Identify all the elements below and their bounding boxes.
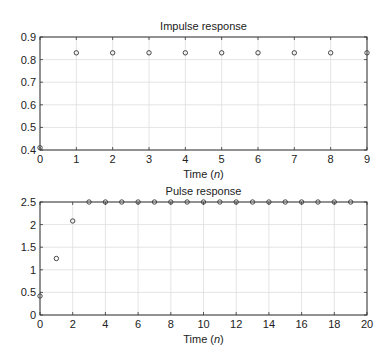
- y-tick-label: 0.7: [21, 76, 36, 88]
- axes-box: [40, 37, 367, 150]
- pulse-response-plot: 0246810121416182000.511.522.5Pulse respo…: [21, 185, 373, 345]
- figure: 01234567890.40.50.60.70.80.9Impulse resp…: [0, 0, 392, 362]
- x-tick-label: 5: [219, 153, 225, 165]
- x-tick-label: 20: [361, 318, 373, 330]
- x-tick-label: 0: [37, 153, 43, 165]
- x-tick-label: 6: [255, 153, 261, 165]
- x-tick-label: 2: [110, 153, 116, 165]
- impulse-response-plot: 01234567890.40.50.60.70.80.9Impulse resp…: [21, 20, 370, 180]
- x-tick-label: 8: [328, 153, 334, 165]
- x-tick-label: 14: [263, 318, 275, 330]
- y-tick-label: 0.5: [21, 121, 36, 133]
- x-axis-label: Time (n): [183, 168, 224, 180]
- x-tick-label: 4: [182, 153, 188, 165]
- y-tick-label: 0.5: [21, 286, 36, 298]
- y-tick-label: 1: [30, 264, 36, 276]
- y-tick-label: 2: [30, 219, 36, 231]
- y-tick-label: 2.5: [21, 196, 36, 208]
- data-point: [54, 256, 58, 260]
- x-tick-label: 18: [328, 318, 340, 330]
- chart-title: Pulse response: [166, 185, 242, 197]
- y-tick-label: 0.9: [21, 31, 36, 43]
- y-tick-label: 0.6: [21, 99, 36, 111]
- x-tick-label: 3: [146, 153, 152, 165]
- x-tick-label: 9: [364, 153, 370, 165]
- y-tick-label: 0.8: [21, 54, 36, 66]
- x-tick-label: 12: [230, 318, 242, 330]
- x-tick-label: 6: [135, 318, 141, 330]
- x-tick-label: 0: [37, 318, 43, 330]
- x-tick-label: 10: [197, 318, 209, 330]
- x-tick-label: 4: [102, 318, 108, 330]
- x-axis-label: Time (n): [183, 333, 224, 345]
- x-tick-label: 1: [73, 153, 79, 165]
- y-tick-label: 0.4: [21, 144, 36, 156]
- chart-title: Impulse response: [160, 20, 247, 32]
- x-tick-label: 8: [168, 318, 174, 330]
- x-tick-label: 2: [70, 318, 76, 330]
- y-tick-label: 1.5: [21, 241, 36, 253]
- y-tick-label: 0: [30, 309, 36, 321]
- x-tick-label: 7: [291, 153, 297, 165]
- x-tick-label: 16: [295, 318, 307, 330]
